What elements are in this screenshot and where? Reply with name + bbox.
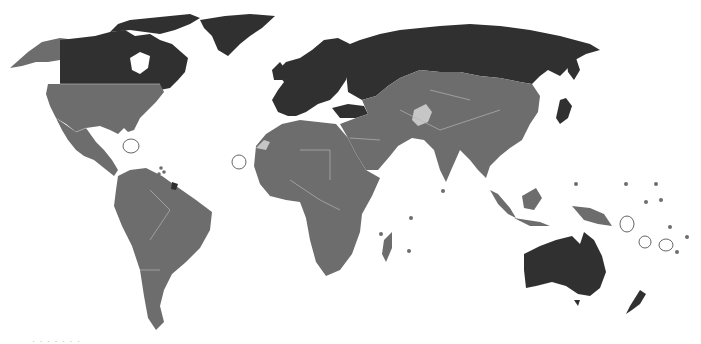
region-tasmania bbox=[574, 300, 580, 306]
region-japan bbox=[556, 98, 572, 124]
region-papua-new-guinea bbox=[572, 206, 612, 226]
region-greenland bbox=[200, 14, 275, 56]
region-new-zealand bbox=[626, 290, 646, 314]
region-madagascar bbox=[382, 232, 392, 262]
region-java bbox=[514, 218, 550, 226]
world-map bbox=[0, 0, 701, 344]
region-borneo bbox=[522, 188, 542, 210]
island-markers bbox=[156, 166, 689, 254]
region-australia bbox=[524, 232, 606, 296]
region-south-america bbox=[114, 168, 212, 330]
region-kamchatka bbox=[566, 56, 580, 80]
region-canada bbox=[60, 30, 188, 90]
region-europe bbox=[272, 38, 350, 116]
map-caption: · · · · · · · bbox=[32, 336, 81, 344]
region-indonesia bbox=[490, 190, 516, 218]
